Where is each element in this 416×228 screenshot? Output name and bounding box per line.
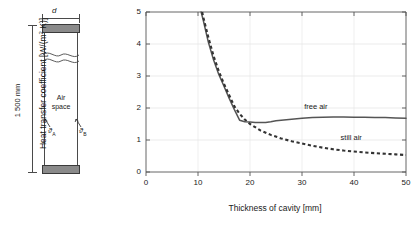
series-annotation-free-air: free air	[304, 102, 327, 111]
y-tick-label: 4	[129, 39, 141, 48]
x-tick-label: 10	[189, 178, 207, 187]
series-line-still-air	[202, 12, 406, 155]
x-tick-label: 40	[345, 178, 363, 187]
y-tick-label: 2	[129, 103, 141, 112]
y-tick-label: 3	[129, 71, 141, 80]
y-tick-label: 0	[129, 167, 141, 176]
y-tick-label: 1	[129, 135, 141, 144]
series-annotation-still-air: still air	[341, 133, 362, 142]
x-tick-label: 20	[241, 178, 259, 187]
y-tick-label: 5	[129, 7, 141, 16]
x-tick-label: 30	[293, 178, 311, 187]
figure-root: d 1 500 mm Air space ϑA ϑB	[0, 0, 416, 228]
x-tick-label: 0	[137, 178, 155, 187]
x-tick-label: 50	[397, 178, 415, 187]
plot-canvas	[0, 0, 416, 228]
heat-transfer-chart: Heat transfer coefficient [W/(m2 K)] Thi…	[0, 0, 416, 228]
